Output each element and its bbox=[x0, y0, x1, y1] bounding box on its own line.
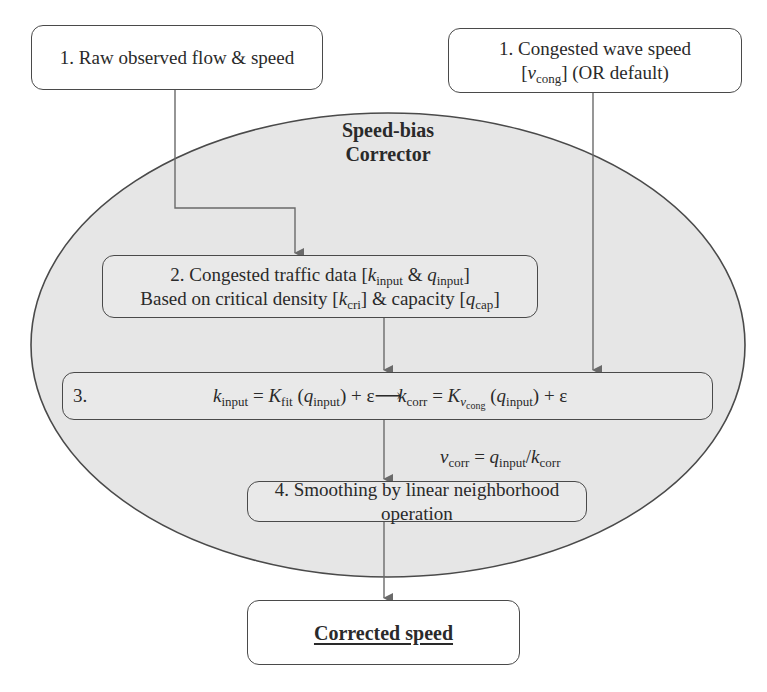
step2-line2: Based on critical density [kcri] & capac… bbox=[140, 287, 499, 311]
step3-fit-equation: kinput = Kfit (qinput) + ε⟶ bbox=[213, 384, 402, 408]
input-raw-flow-label: 1. Raw observed flow & speed bbox=[60, 46, 294, 70]
output-label: Corrected speed bbox=[314, 621, 453, 645]
step2-line1: 2. Congested traffic data [kinput & qinp… bbox=[170, 263, 470, 287]
output-corrected-speed-box: Corrected speed bbox=[247, 600, 520, 665]
input-wave-speed-box: 1. Congested wave speed [vcong] (OR defa… bbox=[448, 28, 742, 93]
corrector-title-line1: Speed-bias bbox=[288, 118, 488, 142]
step2-congested-data-box: 2. Congested traffic data [kinput & qinp… bbox=[102, 255, 538, 318]
step3-corr-equation: kcorr = Kvcong (qinput) + ε bbox=[398, 384, 567, 408]
step3-equation-box: 3. kinput = Kfit (qinput) + ε⟶ kcorr = K… bbox=[62, 372, 713, 420]
input-raw-flow-box: 1. Raw observed flow & speed bbox=[31, 25, 323, 90]
corrected-speed-relation: vcorr = qinput/kcorr bbox=[440, 446, 560, 468]
corrector-title: Speed-bias Corrector bbox=[288, 118, 488, 166]
diagram-canvas bbox=[0, 0, 767, 692]
step3-label: 3. bbox=[73, 384, 87, 408]
input-wave-speed-line1: 1. Congested wave speed bbox=[499, 37, 691, 61]
step4-label: 4. Smoothing by linear neighborhood oper… bbox=[248, 478, 586, 526]
corrector-title-line2: Corrector bbox=[288, 142, 488, 166]
step4-smoothing-box: 4. Smoothing by linear neighborhood oper… bbox=[247, 481, 587, 522]
input-wave-speed-line2: [vcong] (OR default) bbox=[521, 61, 669, 85]
